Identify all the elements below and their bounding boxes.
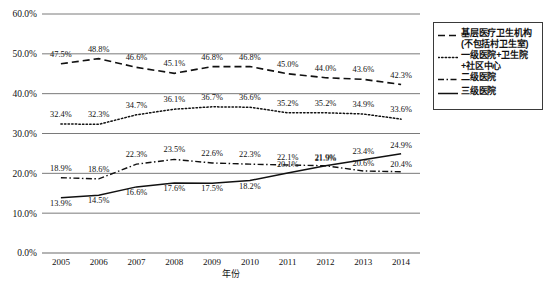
data-label: 42.3% (390, 71, 412, 80)
data-label: 47.5% (50, 50, 72, 59)
data-label: 46.6% (126, 53, 148, 62)
x-axis-tick-label: 2006 (90, 257, 109, 267)
legend-swatch-solid-icon (438, 88, 458, 99)
data-label: 20.4% (390, 160, 412, 169)
y-axis-tick-labels: 0.0%10.0%20.0%30.0%40.0%50.0%60.0% (12, 9, 37, 258)
data-label: 18.2% (239, 182, 261, 191)
data-label: 32.3% (88, 110, 110, 119)
x-axis-tick-label: 2005 (52, 257, 71, 267)
data-label: 35.2% (277, 99, 299, 108)
legend-item-1[interactable]: 基层医疗卫生机构 (不包括村卫生室) (438, 28, 539, 49)
data-label: 33.6% (390, 105, 412, 114)
data-label: 16.6% (126, 188, 148, 197)
data-label: 34.9% (352, 100, 374, 109)
data-label: 45.0% (277, 60, 299, 69)
data-label: 35.2% (315, 99, 337, 108)
data-label: 34.7% (126, 101, 148, 110)
legend-item-label: 一级医院+卫生院 +社区中心 (461, 50, 528, 71)
data-label: 14.5% (88, 196, 110, 205)
data-label: 22.6% (201, 149, 223, 158)
legend-item-3[interactable]: 二级医院 (438, 72, 539, 85)
series-lines (61, 59, 401, 198)
x-axis-tick-label: 2011 (279, 257, 297, 267)
legend-item-4[interactable]: 三级医院 (438, 86, 539, 99)
y-axis-tick-label: 30.0% (12, 129, 37, 139)
data-label: 24.9% (390, 141, 412, 150)
data-label: 48.8% (88, 45, 110, 54)
series-line-4 (61, 154, 401, 198)
x-axis-tick-label: 2012 (317, 257, 335, 267)
legend-item-2[interactable]: 一级医院+卫生院 +社区中心 (438, 50, 539, 71)
x-axis-tick-label: 2008 (165, 257, 184, 267)
data-label: 44.0% (315, 64, 337, 73)
line-chart: 0.0%10.0%20.0%30.0%40.0%50.0%60.0% 20052… (0, 0, 550, 281)
data-label: 22.3% (239, 150, 261, 159)
data-label: 23.5% (163, 145, 185, 154)
y-axis-tick-label: 10.0% (12, 209, 37, 219)
data-label: 36.7% (201, 93, 223, 102)
data-label: 46.8% (239, 53, 261, 62)
legend-item-label: 三级医院 (461, 86, 496, 97)
data-label: 36.6% (239, 93, 261, 102)
x-axis-tick-label: 2013 (354, 257, 373, 267)
series-line-1 (61, 59, 401, 85)
data-label: 32.4% (50, 110, 72, 119)
y-axis-tick-label: 0.0% (17, 248, 37, 258)
x-axis-title: 年份 (222, 268, 240, 279)
data-label: 46.8% (201, 53, 223, 62)
y-axis-tick-label: 50.0% (12, 49, 37, 59)
data-point-labels: 47.5%48.8%46.6%45.1%46.8%46.8%45.0%44.0%… (50, 45, 412, 208)
legend-swatch-dashed-icon (438, 30, 458, 41)
x-axis-tick-label: 2009 (203, 257, 222, 267)
series-line-2 (61, 107, 401, 125)
data-label: 18.6% (88, 165, 110, 174)
data-label: 22.3% (126, 150, 148, 159)
legend-swatch-dotted-icon (438, 52, 458, 63)
data-label: 45.1% (163, 59, 185, 68)
data-label: 36.1% (163, 95, 185, 104)
data-label: 23.4% (352, 147, 374, 156)
x-axis-tick-label: 2007 (128, 257, 147, 267)
chart-legend: 基层医疗卫生机构 (不包括村卫生室)一级医院+卫生院 +社区中心二级医院三级医院 (433, 22, 543, 110)
data-label: 13.9% (50, 199, 72, 208)
legend-item-label: 二级医院 (461, 72, 496, 83)
legend-swatch-dashdot-icon (438, 74, 458, 85)
data-label: 17.6% (163, 184, 185, 193)
x-axis-tick-labels: 2005200620072008200920102011201220132014 (52, 257, 411, 267)
data-label: 21.9% (315, 153, 337, 162)
y-axis-tick-label: 60.0% (12, 9, 37, 19)
x-axis-tick-label: 2010 (241, 257, 260, 267)
data-label: 20.6% (352, 159, 374, 168)
data-label: 18.9% (50, 164, 72, 173)
legend-item-label: 基层医疗卫生机构 (不包括村卫生室) (461, 28, 531, 49)
data-label: 17.5% (201, 184, 223, 193)
y-axis-tick-label: 40.0% (12, 89, 37, 99)
data-label: 20.1% (277, 160, 299, 169)
x-axis-tick-label: 2014 (392, 257, 411, 267)
y-axis-tick-label: 20.0% (12, 169, 37, 179)
data-label: 43.6% (352, 65, 374, 74)
